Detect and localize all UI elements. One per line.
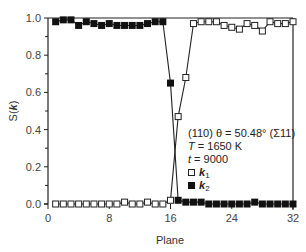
plot-frame	[44, 18, 293, 210]
y-tick-label: 0.8	[26, 49, 41, 61]
open-square-icon	[189, 170, 195, 176]
svg-text:S(k): S(k)	[7, 101, 19, 122]
x-tick-label: 16	[164, 212, 176, 224]
legend-time: t = 9000	[188, 153, 228, 165]
legend-k2: k2	[199, 179, 210, 193]
y-tick-label: 1.0	[26, 12, 41, 24]
y-tick-label: 0.2	[26, 161, 41, 173]
x-tick-label: 32	[287, 212, 299, 224]
series-k2	[52, 16, 296, 207]
y-axis-label: S(k)	[7, 101, 19, 122]
legend-k1: k1	[199, 166, 210, 180]
y-axis-ticks: 0.00.20.40.60.81.0	[26, 12, 48, 210]
y-tick-label: 0.0	[26, 198, 41, 210]
series-k1	[53, 19, 296, 207]
x-tick-label: 0	[45, 212, 51, 224]
x-tick-label: 8	[106, 212, 112, 224]
x-axis-label: Plane	[156, 234, 184, 246]
filled-square-icon	[188, 182, 195, 189]
legend-title: (110) θ = 50.48° (Σ11)	[188, 127, 295, 139]
y-tick-label: 0.4	[26, 124, 41, 136]
x-tick-label: 24	[226, 212, 238, 224]
y-tick-label: 0.6	[26, 86, 41, 98]
chart: 0.00.20.40.60.81.0 08162432 Plane S(k) (…	[0, 0, 306, 252]
legend-temperature: T = 1650 K	[188, 140, 243, 152]
legend: (110) θ = 50.48° (Σ11) T = 1650 K t = 90…	[188, 127, 295, 193]
